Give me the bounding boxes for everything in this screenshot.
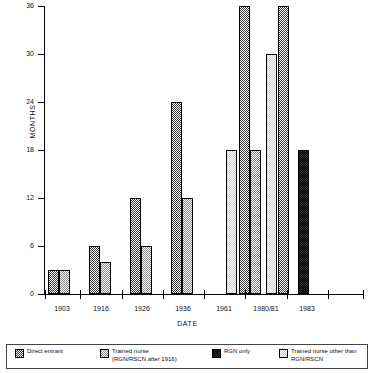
bar-1980-81-18 <box>250 150 261 294</box>
bar-1980-81-36 <box>278 6 289 294</box>
bar-1903-3 <box>48 270 59 294</box>
x-tick-label-1983: 1983 <box>284 305 330 312</box>
x-tick-mark <box>363 290 364 299</box>
bar-1916-6 <box>89 246 100 294</box>
legend-swatch-icon <box>100 349 109 358</box>
x-tick-mark <box>287 290 288 299</box>
x-tick-mark <box>122 290 123 299</box>
bar-group <box>0 0 375 295</box>
chart-legend: Direct entrantTrained nurse (RGN/RSCN af… <box>6 344 368 369</box>
x-tick-mark <box>328 290 329 299</box>
legend-label: Trained nurse other than RGN/RSCN <box>291 348 356 363</box>
legend-item-1[interactable]: Trained nurse (RGN/RSCN after 1916) <box>100 348 205 367</box>
legend-label: RGN only <box>224 348 250 356</box>
legend-item-0[interactable]: Direct entrant <box>15 348 93 367</box>
bar-1936-24 <box>171 102 182 294</box>
legend-swatch-icon <box>212 349 221 358</box>
x-tick-mark <box>245 290 246 299</box>
x-tick-label-1916: 1916 <box>78 305 124 312</box>
legend-swatch-icon <box>15 349 24 358</box>
bar-1926-12 <box>130 198 141 294</box>
x-tick-label-1980-81: 1980/81 <box>243 305 289 312</box>
legend-item-2[interactable]: RGN only <box>212 348 272 367</box>
x-tick-label-1936: 1936 <box>160 305 206 312</box>
x-tick-mark <box>163 290 164 299</box>
bar-1983-18 <box>298 150 309 294</box>
x-tick-mark <box>45 290 46 299</box>
x-tick-mark <box>204 290 205 299</box>
bar-1916-4 <box>100 262 111 294</box>
bar-1926-6 <box>141 246 152 294</box>
chart-page: MONTHS 061218243036 19031916192619361961… <box>0 0 375 373</box>
legend-item-3[interactable]: Trained nurse other than RGN/RSCN <box>279 348 374 367</box>
legend-swatch-icon <box>279 349 288 358</box>
bar-1961-18 <box>226 150 237 294</box>
legend-label: Trained nurse (RGN/RSCN after 1916) <box>112 348 177 363</box>
bar-1980-81-36 <box>239 6 250 294</box>
bar-1980-81-30 <box>266 54 277 294</box>
bar-1903-3 <box>59 270 70 294</box>
x-tick-label-1926: 1926 <box>119 305 165 312</box>
x-tick-label-1961: 1961 <box>201 305 247 312</box>
legend-label: Direct entrant <box>27 348 63 356</box>
x-tick-mark <box>80 290 81 299</box>
plot-area: MONTHS 061218243036 19031916192619361961… <box>0 0 375 340</box>
bar-1936-12 <box>182 198 193 294</box>
x-axis-label: DATE <box>0 320 375 327</box>
